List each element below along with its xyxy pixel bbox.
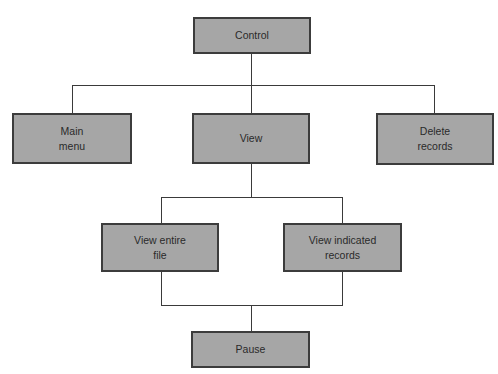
node-view-entire-file-label: View entire file	[134, 233, 186, 263]
connector-level2-bus	[161, 197, 343, 198]
connector-to-view	[251, 85, 252, 113]
node-delete-records-label: Delete records	[417, 124, 452, 154]
connector-to-view-entire-file	[161, 197, 162, 223]
connector-view-indicated-records-down	[342, 271, 343, 305]
connector-to-main-menu	[72, 85, 73, 113]
connector-to-pause	[251, 305, 252, 331]
connector-pause-bus	[161, 305, 343, 306]
node-view: View	[192, 113, 310, 164]
node-main-menu: Main menu	[12, 113, 132, 164]
node-control-label: Control	[235, 28, 269, 43]
node-pause-label: Pause	[236, 342, 266, 357]
connector-view-down	[251, 163, 252, 197]
node-view-entire-file: View entire file	[101, 223, 219, 272]
connector-view-entire-file-down	[161, 271, 162, 305]
connector-level1-bus	[72, 85, 435, 86]
node-main-menu-label: Main menu	[59, 124, 85, 154]
node-view-indicated-records: View indicated records	[283, 223, 402, 272]
node-control: Control	[193, 17, 311, 54]
connector-control-down	[251, 53, 252, 85]
node-delete-records: Delete records	[376, 113, 494, 165]
connector-to-delete-records	[434, 85, 435, 113]
node-view-indicated-records-label: View indicated records	[309, 233, 377, 263]
hierarchy-diagram: Control Main menu View Delete records Vi…	[0, 0, 498, 374]
node-view-label: View	[240, 131, 263, 146]
connector-to-view-indicated-records	[342, 197, 343, 223]
node-pause: Pause	[191, 331, 310, 368]
